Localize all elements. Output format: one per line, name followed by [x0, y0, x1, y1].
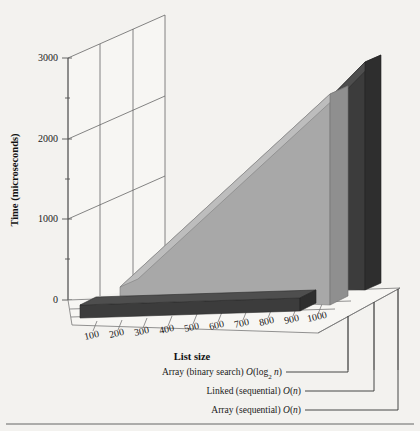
legend-paren-close-array-binary-search: ) — [279, 367, 282, 378]
y-tick-label-1000: 1000 — [38, 213, 58, 224]
legend-label-array-binary-search: Array (binary search) — [162, 367, 246, 378]
legend-label-linked-sequential: Linked (sequential) — [207, 386, 284, 397]
legend-item-linked-sequential[interactable]: Linked (sequential) O(n) — [207, 386, 301, 397]
y-tick-label-3000: 3000 — [38, 52, 58, 63]
legend-item-array-sequential[interactable]: Array (sequential) O(n) — [211, 405, 301, 416]
legend-paren-close-array-sequential: ) — [298, 405, 301, 416]
back-wall — [68, 15, 165, 300]
back-wall-plane — [68, 15, 165, 300]
y-tick-label-2000: 2000 — [38, 133, 58, 144]
chart-figure: 3000 2000 1000 0 Time (microseconds) — [0, 0, 420, 431]
legend-label-array-sequential: Array (sequential) — [211, 405, 283, 416]
y-axis-title: Time (microseconds) — [9, 133, 21, 227]
x-axis-title: List size — [174, 351, 211, 362]
legend-paren-close-linked-sequential: ) — [298, 386, 301, 397]
series-array-sequential-side — [365, 55, 381, 290]
y-tick-label-0: 0 — [53, 294, 58, 305]
series-linked-sequential-side — [330, 86, 348, 305]
legend-paren-open-array-binary-search: (log — [253, 367, 269, 378]
